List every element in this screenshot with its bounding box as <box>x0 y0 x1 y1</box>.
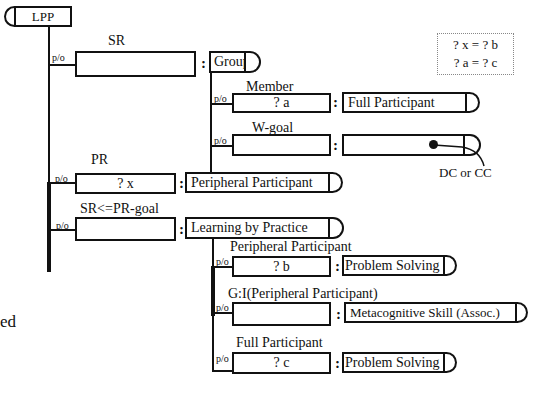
pp-colon: : <box>335 259 340 274</box>
margin-text-fragment: ed <box>0 313 16 330</box>
pr-part-of-label: p/o <box>55 174 68 184</box>
pp-role-label: Peripheral Participant <box>230 240 352 254</box>
pr-role-label: PR <box>91 153 108 167</box>
pp-problem-solving-type-label: Problem Solving <box>345 258 440 274</box>
branch-sr-line <box>48 64 76 66</box>
wgoal-role-label: W-goal <box>252 121 293 135</box>
goal-colon: : <box>179 222 184 237</box>
member-role-label: Member <box>246 80 293 94</box>
full-participant-type-box[interactable]: Full Participant <box>342 92 468 113</box>
wgoal-part-of-label: p/o <box>214 136 227 146</box>
fp-colon: : <box>335 356 340 371</box>
pr-colon: : <box>179 176 184 191</box>
branch-fp-line <box>212 370 233 372</box>
full-participant-right-cap <box>467 92 480 113</box>
lpp-label: LPP <box>32 9 54 25</box>
pr-value: ? x <box>117 176 134 192</box>
group-right-cap <box>246 51 261 73</box>
fp-problem-solving-type-label: Problem Solving <box>345 355 440 371</box>
metacognitive-skill-right-cap <box>517 302 528 323</box>
goal-role-label: SR<=PR-goal <box>80 202 159 216</box>
goal-part-of-label: p/o <box>56 221 69 231</box>
fp-part-of-label: p/o <box>216 354 229 364</box>
member-value-box[interactable]: ? a <box>232 93 331 113</box>
member-part-of-label: p/o <box>214 94 227 104</box>
wgoal-colon: : <box>333 138 338 153</box>
main-trunk-thick-segment <box>47 182 51 272</box>
gi-colon: : <box>336 307 341 322</box>
wgoal-right-cap <box>465 134 481 156</box>
full-participant-type-label: Full Participant <box>348 95 435 111</box>
goal-value-box[interactable] <box>75 217 176 241</box>
gi-value-box[interactable] <box>232 302 331 326</box>
sr-role-label: SR <box>108 34 125 48</box>
pp-value: ? b <box>273 259 290 275</box>
metacognitive-skill-type-box[interactable]: Metacognitive Skill (Assoc.) <box>344 302 518 323</box>
lpp-root-box[interactable]: LPP <box>14 6 72 27</box>
peripheral-participant-type-label: Peripheral Participant <box>191 175 313 191</box>
fp-value-box[interactable]: ? c <box>232 352 331 374</box>
peripheral-participant-right-cap <box>330 172 343 193</box>
group-trunk-line <box>210 72 212 178</box>
sr-part-of-label: p/o <box>52 53 65 63</box>
fp-role-label: Full Participant <box>236 336 323 350</box>
pr-value-box[interactable]: ? x <box>75 173 176 194</box>
sr-value-box[interactable] <box>75 51 196 77</box>
sr-colon: : <box>201 56 206 71</box>
peripheral-participant-type-box[interactable]: Peripheral Participant <box>185 172 331 193</box>
member-value: ? a <box>274 95 290 111</box>
fp-problem-solving-type-box[interactable]: Problem Solving <box>342 352 446 373</box>
gi-part-of-label: p/o <box>216 303 229 313</box>
pp-problem-solving-type-box[interactable]: Problem Solving <box>342 255 446 276</box>
learning-by-practice-right-cap <box>330 217 344 239</box>
group-type-label: Group <box>214 54 247 70</box>
member-colon: : <box>333 95 338 110</box>
pp-value-box[interactable]: ? b <box>232 256 331 277</box>
equality-note-box: ? x = ? b ? a = ? c <box>437 33 514 75</box>
pp-problem-solving-right-cap <box>445 255 457 276</box>
learning-by-practice-type-box[interactable]: Learning by Practice <box>185 217 331 239</box>
fp-problem-solving-right-cap <box>445 352 457 373</box>
metacognitive-skill-type-label: Metacognitive Skill (Assoc.) <box>350 305 500 321</box>
wgoal-value-box[interactable] <box>232 134 331 156</box>
group-type-box[interactable]: Group <box>209 51 247 73</box>
wgoal-slot-dot <box>429 140 438 149</box>
fp-value: ? c <box>274 355 290 371</box>
gi-role-label: G:I(Peripheral Participant) <box>228 287 378 301</box>
pp-part-of-label: p/o <box>216 257 229 267</box>
dc-or-cc-annotation: DC or CC <box>439 166 492 179</box>
lbp-trunk-thick-segment <box>211 266 215 316</box>
equality-note-line-1: ? x = ? b <box>453 36 498 54</box>
equality-note-line-2: ? a = ? c <box>454 54 497 72</box>
learning-by-practice-type-label: Learning by Practice <box>191 220 308 236</box>
wgoal-type-box[interactable] <box>342 134 466 156</box>
